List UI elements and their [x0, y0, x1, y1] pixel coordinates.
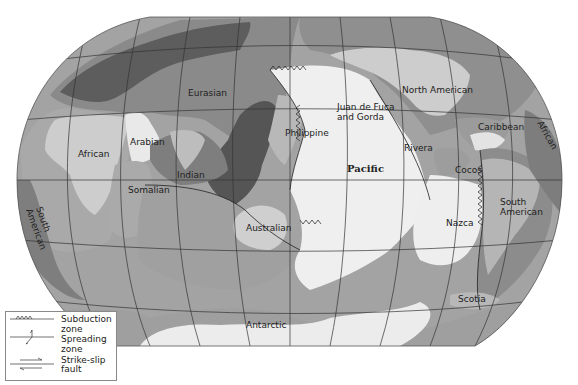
map-legend: Subduction zone Spreading zone Strike-sl…: [5, 311, 117, 381]
label-arabian: Arabian: [130, 137, 165, 147]
label-pacific: Pacific: [347, 163, 384, 174]
label-nazca: Nazca: [446, 218, 473, 228]
label-african: African: [78, 149, 109, 159]
legend-strike-slip-label: Strike-slip fault: [61, 356, 116, 374]
legend-subduction-label-2: zone: [61, 325, 82, 334]
label-caribbean: Caribbean: [478, 122, 524, 132]
label-antarctic: Antarctic: [246, 320, 286, 330]
legend-spreading-label-1: Spreading: [61, 335, 107, 344]
label-south-american-2: American: [500, 207, 543, 217]
strike-slip-symbol-icon: [10, 358, 54, 370]
legend-subduction-label-1: Subduction: [61, 315, 112, 324]
label-scotia: Scotia: [458, 294, 486, 304]
label-cocos: Cocos: [455, 165, 482, 175]
label-north-american: North American: [402, 85, 473, 95]
label-philippine: Philippine: [285, 128, 329, 138]
label-eurasian: Eurasian: [188, 88, 227, 98]
legend-spreading-label-2: zone: [61, 345, 82, 354]
label-australian: Australian: [246, 223, 292, 233]
label-juan-de-fuca-1: Juan de Fuca: [336, 102, 394, 112]
spreading-symbol-icon: [10, 330, 54, 344]
label-rivera: Rivera: [404, 143, 433, 153]
label-somalian: Somalian: [128, 185, 170, 195]
label-juan-de-fuca-2: and Gorda: [337, 112, 384, 122]
label-south-american-1: South: [500, 197, 526, 207]
label-indian: Indian: [177, 170, 205, 180]
